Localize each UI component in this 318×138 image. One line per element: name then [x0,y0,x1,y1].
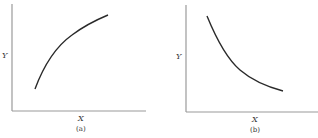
panel-a-y-label: Y [2,52,7,60]
figure-canvas [0,0,318,138]
panel-b-x-label: X [252,116,258,124]
panel-a-curve [35,15,108,89]
panel-b-y-label: Y [176,53,181,61]
panel-a-x-label: X [78,115,84,123]
panel-b-curve [207,16,283,91]
panel-a-axes [12,4,146,111]
panel-b-axes [186,5,318,112]
panel-b-caption: (b) [250,127,260,134]
panel-a-caption: (a) [76,126,86,133]
